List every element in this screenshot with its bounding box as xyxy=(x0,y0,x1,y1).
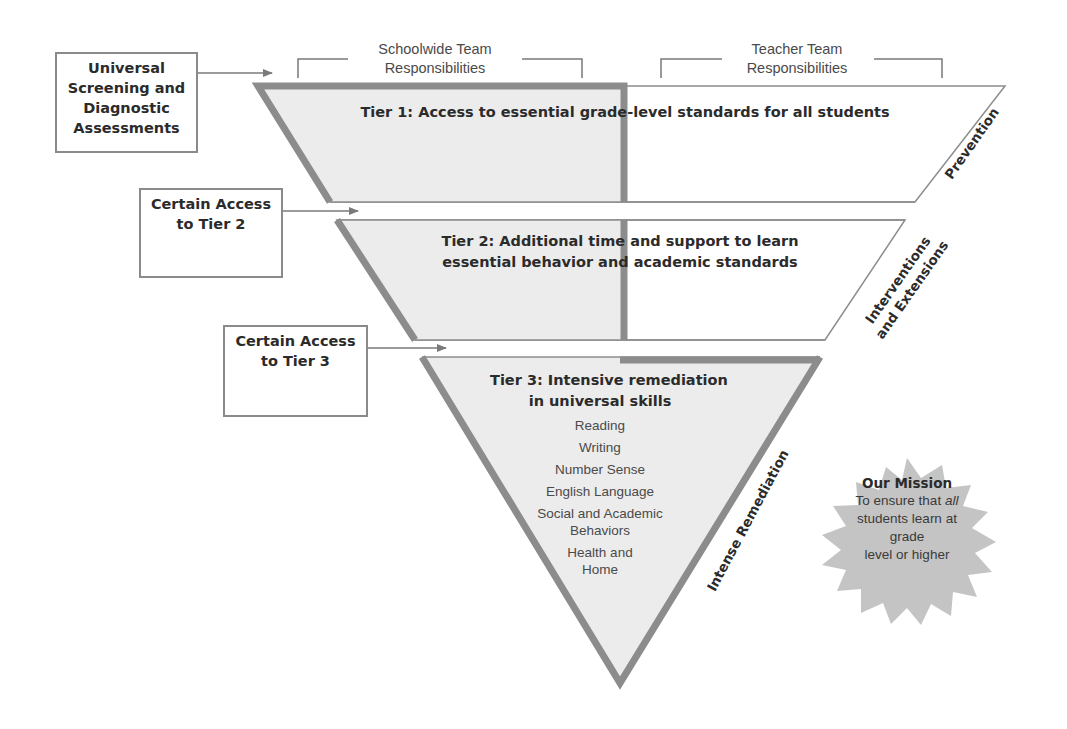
teacher-header-line2: Responsibilities xyxy=(712,59,882,78)
tier2-access-line2: to Tier 2 xyxy=(141,214,281,234)
schoolwide-header-line1: Schoolwide Team xyxy=(340,40,530,59)
skill-label: Writing xyxy=(500,439,700,456)
skill-label: Social and Academic xyxy=(500,505,700,522)
schoolwide-header-line2: Responsibilities xyxy=(340,59,530,78)
tier1-title-text: Tier 1: Access to essential grade-level … xyxy=(345,102,905,123)
schoolwide-header: Schoolwide Team Responsibilities xyxy=(340,40,530,78)
skill-item-number-sense: Number Sense xyxy=(500,461,700,478)
skill-item-writing: Writing xyxy=(500,439,700,456)
teacher-header-line1: Teacher Team xyxy=(712,40,882,59)
skill-label: Home xyxy=(500,561,700,578)
tier2-access-line1: Certain Access xyxy=(141,194,281,214)
teacher-header: Teacher Team Responsibilities xyxy=(712,40,882,78)
tier3-title-line2: in universal skills xyxy=(490,391,710,412)
tier3-access-box: Certain Access to Tier 3 xyxy=(223,325,368,417)
screening-box: Universal Screening and Diagnostic Asses… xyxy=(55,52,198,153)
screening-line3: Diagnostic xyxy=(57,98,196,118)
mission-emphasis: all xyxy=(945,493,959,508)
skill-item-english-language: English Language xyxy=(500,483,700,500)
skill-item-reading: Reading xyxy=(500,417,700,434)
tier3-title-line1: Tier 3: Intensive remediation xyxy=(490,370,710,391)
skill-label: Health and xyxy=(500,544,700,561)
mission-statement: Our Mission To ensure that all students … xyxy=(832,474,982,564)
screening-line2: Screening and xyxy=(57,78,196,98)
tier3-skills-list: Reading Writing Number Sense English Lan… xyxy=(500,417,700,583)
skill-item-health-home: Health and Home xyxy=(500,544,700,578)
skill-label: English Language xyxy=(500,483,700,500)
skill-label: Behaviors xyxy=(500,522,700,539)
tier3-title: Tier 3: Intensive remediation in univers… xyxy=(490,370,710,412)
mission-line3: grade xyxy=(832,528,982,546)
tier3-access-line1: Certain Access xyxy=(225,331,366,351)
mission-line1-text: To ensure that xyxy=(856,493,945,508)
mission-line4: level or higher xyxy=(832,546,982,564)
screening-line4: Assessments xyxy=(57,118,196,138)
skill-item-social-academic-behaviors: Social and Academic Behaviors xyxy=(500,505,700,539)
mission-line1: To ensure that all xyxy=(832,492,982,510)
mission-line2: students learn at xyxy=(832,510,982,528)
mission-title: Our Mission xyxy=(832,474,982,492)
tier2-title-line2: essential behavior and academic standard… xyxy=(420,252,820,273)
skill-label: Reading xyxy=(500,417,700,434)
skill-label: Number Sense xyxy=(500,461,700,478)
screening-line1: Universal xyxy=(57,58,196,78)
tier1-title: Tier 1: Access to essential grade-level … xyxy=(345,102,905,123)
tier2-access-box: Certain Access to Tier 2 xyxy=(139,188,283,278)
tier3-access-line2: to Tier 3 xyxy=(225,351,366,371)
tier2-title-line1: Tier 2: Additional time and support to l… xyxy=(420,231,820,252)
rti-pyramid-diagram: Schoolwide Team Responsibilities Teacher… xyxy=(0,0,1067,729)
tier2-title: Tier 2: Additional time and support to l… xyxy=(420,231,820,273)
